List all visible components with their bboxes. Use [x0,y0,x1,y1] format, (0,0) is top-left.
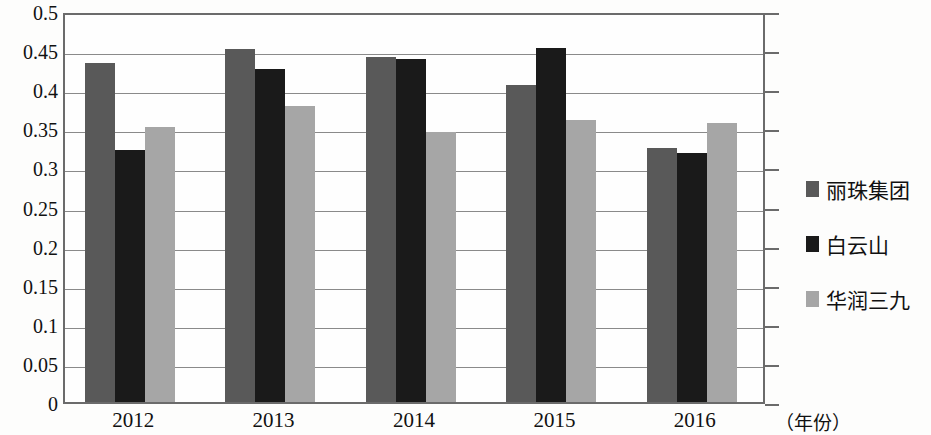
legend-swatch-icon [806,181,819,197]
bar [396,59,426,402]
x-axis-tick-label: 2012 [63,408,203,433]
y-axis-tick-mark [765,91,779,93]
bar-group [486,15,626,402]
bar [145,127,175,402]
bar [566,120,596,402]
y-axis-tick-mark [765,248,779,250]
y-axis-tick-mark [765,169,779,171]
plot-area [63,13,765,404]
bar-group [627,15,767,402]
bar [506,85,536,402]
bar [677,153,707,402]
legend-item: 白云山 [806,229,889,259]
x-axis-tick-label: 2014 [344,408,484,433]
y-axis-tick-mark [765,209,779,211]
bar [285,106,315,402]
y-axis-tick-label: 0.2 [0,238,58,258]
legend-label: 丽珠集团 [826,174,910,204]
legend-label: 华润三九 [826,284,910,314]
bar [85,63,115,402]
x-axis-title: （年份） [775,408,851,435]
y-axis-tick-mark [765,404,779,406]
x-axis-tick-label: 2016 [625,408,765,433]
y-axis-tick-mark [765,326,779,328]
x-axis-tick-label: 2015 [484,408,624,433]
legend-item: 华润三九 [806,284,910,314]
y-axis-tick-mark [765,287,779,289]
y-axis-tick-label: 0.1 [0,316,58,336]
legend-swatch-icon [806,236,819,252]
y-axis-tick-label: 0.3 [0,159,58,179]
y-axis-tick-mark [765,52,779,54]
bar [426,132,456,402]
y-axis-tick-label: 0.05 [0,355,58,375]
bar [647,148,677,402]
y-axis-tick-mark [765,365,779,367]
legend-item: 丽珠集团 [806,174,910,204]
y-axis-tick-label: 0.4 [0,81,58,101]
y-axis-tick-label: 0.25 [0,199,58,219]
y-axis-tick-label: 0.5 [0,3,58,23]
bar [255,69,285,402]
y-axis-tick-mark [765,13,779,15]
bar [115,150,145,402]
y-axis-tick-label: 0.45 [0,42,58,62]
bar-group [346,15,486,402]
bar [366,57,396,402]
legend-swatch-icon [806,291,819,307]
y-axis-tick-label: 0 [0,394,58,414]
x-axis-tick-label: 2013 [204,408,344,433]
bar [225,49,255,402]
y-axis-tick-label: 0.15 [0,277,58,297]
legend-label: 白云山 [826,229,889,259]
chart-figure: 00.050.10.150.20.250.30.350.40.450.5 201… [0,0,931,435]
bar [707,123,737,402]
y-axis: 00.050.10.150.20.250.30.350.40.450.5 [0,0,58,435]
y-axis-tick-label: 0.35 [0,120,58,140]
bar-group [205,15,345,402]
bar [536,48,566,402]
bar-group [65,15,205,402]
y-axis-tick-mark [765,130,779,132]
